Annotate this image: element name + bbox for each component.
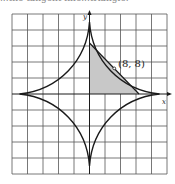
- astroid-diagram: (8, 8) y x: [0, 0, 175, 184]
- point-label: (8, 8): [118, 58, 145, 69]
- y-axis-arrow-icon: [88, 10, 92, 15]
- x-axis-arrow-icon: [167, 92, 172, 96]
- tangent-point: [113, 67, 116, 70]
- x-axis-label: x: [162, 98, 166, 106]
